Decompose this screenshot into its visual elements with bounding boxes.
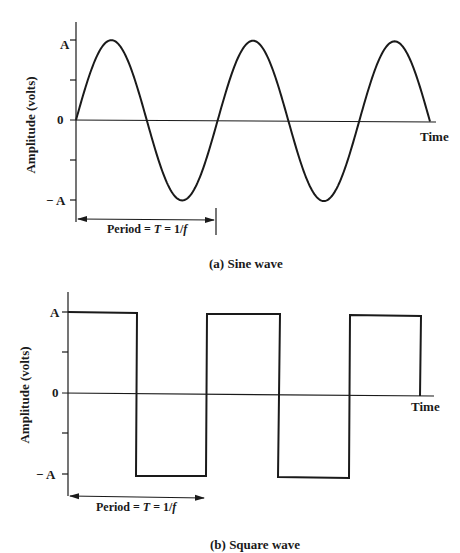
square-tick-label-negA: − A — [36, 467, 56, 482]
sine-x-axis — [70, 120, 436, 122]
sine-period-arrow — [78, 219, 214, 220]
sine-caption: (a) Sine wave — [209, 256, 283, 271]
square-caption: (b) Square wave — [210, 537, 300, 552]
square-x-axis — [62, 393, 434, 396]
square-x-axis-label: Time — [411, 399, 440, 414]
square-period-arrow — [70, 496, 204, 498]
sine-tick-label-negA: − A — [46, 193, 66, 208]
square-tick-label-A: A — [50, 305, 60, 320]
square-wave-chart: A 0 − A Amplitude (volts) Time Period = … — [17, 292, 440, 552]
square-y-axis-label: Amplitude (volts) — [17, 346, 32, 443]
waveform-figure: A 0 − A Amplitude (volts) Time Period = … — [0, 0, 460, 553]
sine-y-axis-label: Amplitude (volts) — [23, 76, 38, 173]
square-tick-label-zero: 0 — [52, 385, 59, 400]
sine-x-axis-label: Time — [420, 129, 449, 144]
sine-wave-chart: A 0 − A Amplitude (volts) Time Period = … — [23, 22, 449, 271]
sine-tick-label-zero: 0 — [57, 112, 64, 127]
sine-tick-label-A: A — [60, 37, 70, 52]
square-period-label: Period = T = 1/f — [96, 500, 177, 514]
sine-period-label: Period = T = 1/f — [107, 222, 188, 236]
